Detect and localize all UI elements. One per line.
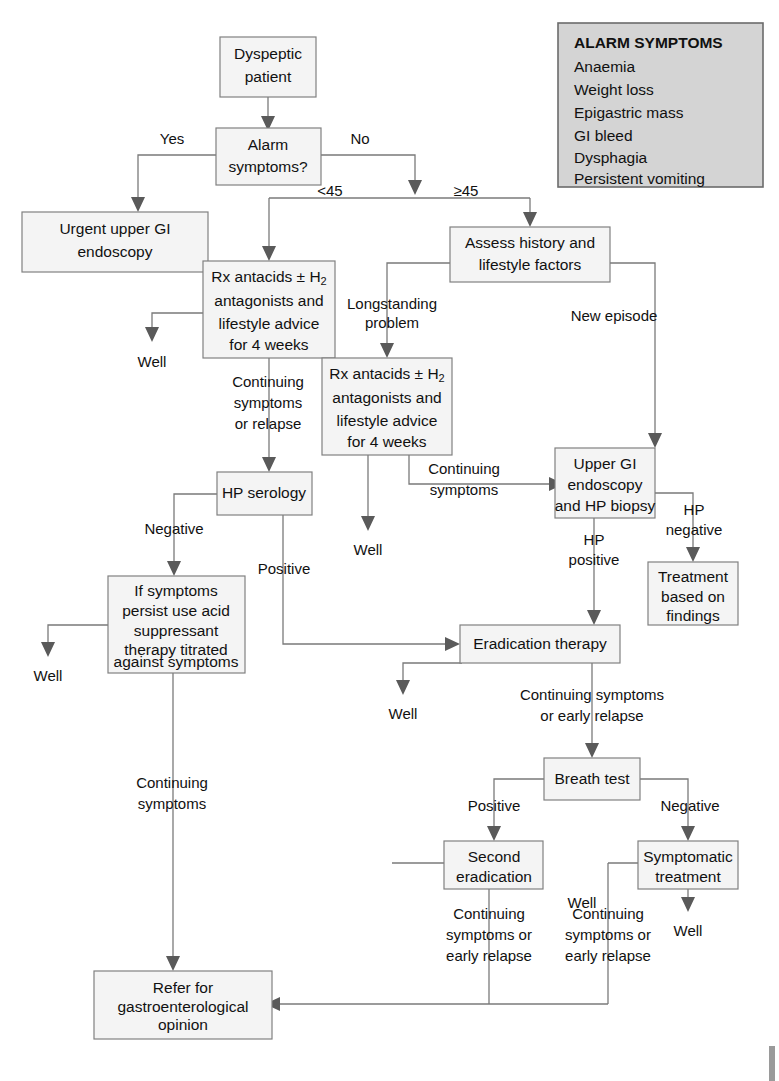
terminal-well-6: Well <box>674 922 703 939</box>
node-upper-gi-endoscopy-hp-line-0: Upper GI <box>574 455 637 472</box>
terminal-well-1: Well <box>138 353 167 370</box>
arrowhead-over45 <box>523 212 537 227</box>
node-dyspeptic-patient-line-0: Dyspeptic <box>234 45 302 62</box>
edge-label-continuing-early1-line-0: Continuing symptoms <box>520 686 664 703</box>
node-symptomatic-treatment-line-0: Symptomatic <box>643 848 733 865</box>
edge-alarm-yes <box>138 155 216 203</box>
node-urgent-endoscopy: Urgent upper GI endoscopy <box>22 212 208 272</box>
node-acid-suppressant-line-1: persist use acid <box>122 602 230 619</box>
node-second-eradication-line-1: eradication <box>456 868 532 885</box>
node-upper-gi-endoscopy-hp-line-2: and HP biopsy <box>555 497 656 514</box>
legend-item-gi-bleed: GI bleed <box>574 127 633 144</box>
arrowhead-acid-suppressant-refer <box>166 956 180 971</box>
arrowhead-endoscopy-hp-positive <box>587 610 601 625</box>
edge-label-continuing-relapse1-line-1: symptoms <box>234 394 302 411</box>
node-second-eradication: Second eradication <box>444 841 543 889</box>
arrowhead-rx-young-to-serology <box>262 457 276 472</box>
node-rx-antacids-longstanding: Rx antacids ± H2 antagonists and lifesty… <box>322 358 452 455</box>
arrowhead-under45 <box>262 246 276 261</box>
node-eradication-therapy-line-0: Eradication therapy <box>473 635 607 652</box>
legend-item-persistent-vomiting: Persistent vomiting <box>574 170 705 187</box>
edge-label-under45: <45 <box>317 182 342 199</box>
node-acid-suppressant-line-0: If symptoms <box>134 582 218 599</box>
node-urgent-endoscopy-line-1: endoscopy <box>78 243 153 260</box>
edge-label-continuing-symptoms2-line-1: symptoms <box>138 795 206 812</box>
flowchart-canvas: Dyspeptic patient Alarm symptoms? Urgent… <box>0 0 779 1081</box>
node-symptomatic-treatment-line-1: treatment <box>655 868 721 885</box>
edge-label-hp-negative-line-1: negative <box>666 521 723 538</box>
edge-label-continuing-early1-line-1: or early relapse <box>540 707 643 724</box>
node-treatment-findings-line-0: Treatment <box>658 568 729 585</box>
node-assess-history: Assess history and lifestyle factors <box>450 227 610 282</box>
arrowhead-symptomatic-well <box>681 897 695 912</box>
node-rx-antacids-young-line-1: antagonists and <box>214 292 323 309</box>
node-rx-antacids-young-line-3: for 4 weeks <box>229 336 309 353</box>
node-rx-antacids-young-line-2: lifestyle advice <box>219 315 320 332</box>
arrowhead-rx-young-well <box>145 327 159 342</box>
node-acid-suppressant: If symptoms persist use acid suppressant… <box>108 576 245 673</box>
edge-label-continuing-early3-line-1: symptoms or <box>565 926 651 943</box>
edge-label-positive-serology: Positive <box>258 560 311 577</box>
terminal-well-4: Well <box>389 705 418 722</box>
edge-label-new-episode: New episode <box>571 307 658 324</box>
edge-acid-suppressant-well <box>48 625 108 648</box>
node-symptomatic-treatment: Symptomatic treatment <box>638 841 738 889</box>
arrowhead-eradication-breath <box>585 743 599 758</box>
node-breath-test-line-0: Breath test <box>555 770 631 787</box>
arrowhead-breath-positive <box>487 826 501 841</box>
legend-item-weight-loss: Weight loss <box>574 81 654 98</box>
terminal-well-2: Well <box>354 541 383 558</box>
page-corner-mark <box>769 1046 775 1081</box>
node-dyspeptic-patient: Dyspeptic patient <box>220 37 316 97</box>
terminal-well-5: Well <box>568 894 597 911</box>
edge-serology-positive <box>283 515 451 644</box>
node-rx-antacids-longstanding-line-3: for 4 weeks <box>347 433 427 450</box>
node-alarm-symptoms: Alarm symptoms? <box>216 128 321 185</box>
node-rx-antacids-young: Rx antacids ± H2 antagonists and lifesty… <box>203 261 335 358</box>
node-upper-gi-endoscopy-hp: Upper GI endoscopy and HP biopsy <box>555 448 656 518</box>
edge-label-continuing-symptoms1-line-1: symptoms <box>430 481 498 498</box>
node-refer-gastro: Refer for gastroenterological opinion <box>94 971 272 1039</box>
arrowhead-rx-long-well <box>361 516 375 531</box>
edge-label-continuing-early2-line-1: symptoms or <box>446 926 532 943</box>
legend-title: ALARM SYMPTOMS <box>574 34 723 51</box>
edge-label-negative-serology: Negative <box>144 520 203 537</box>
edge-eradication-well <box>403 663 462 686</box>
node-second-eradication-line-0: Second <box>468 848 521 865</box>
legend-item-dysphagia: Dysphagia <box>574 149 648 166</box>
legend-item-epigastric-mass: Epigastric mass <box>574 104 684 121</box>
node-acid-suppressant-line-4: against symptoms <box>114 653 239 670</box>
edge-label-longstanding-line-1: problem <box>365 314 419 331</box>
legend-item-anaemia: Anaemia <box>574 58 636 75</box>
edge-label-continuing-relapse1-line-2: or relapse <box>235 415 302 432</box>
edge-label-positive-breath: Positive <box>468 797 521 814</box>
edge-labels-layer: Yes No <45 ≥45 Longstanding problem New … <box>136 130 722 964</box>
node-urgent-endoscopy-line-0: Urgent upper GI <box>59 220 170 237</box>
node-hp-serology: HP serology <box>217 472 312 515</box>
arrowhead-alarm-no <box>408 180 422 195</box>
node-assess-history-line-0: Assess history and <box>465 234 595 251</box>
arrowhead-serology-negative <box>167 561 181 576</box>
node-dyspeptic-patient-line-1: patient <box>245 68 292 85</box>
node-eradication-therapy: Eradication therapy <box>460 625 620 663</box>
edge-label-hp-positive-line-0: HP <box>584 531 605 548</box>
arrowhead-serology-positive <box>445 637 460 651</box>
edge-label-continuing-early3-line-2: early relapse <box>565 947 651 964</box>
arrowhead-assess-new-episode <box>648 433 662 448</box>
node-assess-history-line-1: lifestyle factors <box>479 256 582 273</box>
edge-label-hp-positive-line-1: positive <box>569 551 620 568</box>
node-upper-gi-endoscopy-hp-line-1: endoscopy <box>568 476 643 493</box>
dyspepsia-flowchart: Dyspeptic patient Alarm symptoms? Urgent… <box>0 0 779 1081</box>
node-refer-gastro-line-1: gastroenterological <box>118 998 249 1015</box>
edge-label-continuing-early2-line-0: Continuing <box>453 905 525 922</box>
edge-label-continuing-symptoms2-line-0: Continuing <box>136 774 208 791</box>
node-treatment-findings-line-1: based on <box>661 588 725 605</box>
node-rx-antacids-young-line-0: Rx antacids ± H2 <box>211 268 326 287</box>
node-acid-suppressant-line-2: suppressant <box>134 622 219 639</box>
node-treatment-findings: Treatment based on findings <box>648 562 738 625</box>
node-alarm-symptoms-line-0: Alarm <box>248 136 288 153</box>
arrowhead-alarm-yes <box>131 197 145 212</box>
arrowhead-acid-suppressant-well <box>41 642 55 657</box>
node-treatment-findings-line-2: findings <box>666 607 720 624</box>
edge-label-yes: Yes <box>160 130 184 147</box>
